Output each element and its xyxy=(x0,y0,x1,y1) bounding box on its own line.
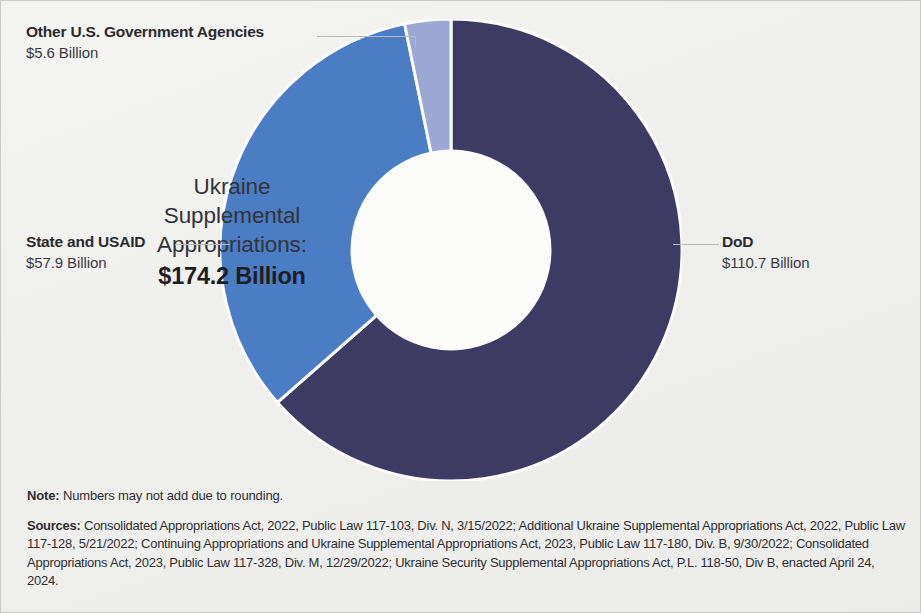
note-line: Note: Numbers may not add due to roundin… xyxy=(27,487,907,506)
donut-hole xyxy=(351,150,552,351)
callout-other-agencies: Other U.S. Government Agencies $5.6 Bill… xyxy=(26,23,264,61)
chart-figure: Ukraine Supplemental Appropriations: $17… xyxy=(0,0,921,613)
callout-state-usaid: State and USAID $57.9 Billion xyxy=(26,233,145,271)
sources-line: Sources: Consolidated Appropriations Act… xyxy=(27,517,905,591)
footnotes: Note: Numbers may not add due to roundin… xyxy=(27,487,907,591)
sources-text: Consolidated Appropriations Act, 2022, P… xyxy=(27,518,905,588)
center-total-value: $174.2 Billion xyxy=(132,261,332,291)
callout-state-value: $57.9 Billion xyxy=(26,254,145,271)
leader-line-other-horizontal xyxy=(317,36,416,37)
note-label: Note: xyxy=(27,488,59,503)
sources-label: Sources: xyxy=(27,518,81,533)
note-text: Numbers may not add due to rounding. xyxy=(59,488,283,503)
callout-state-name: State and USAID xyxy=(26,233,145,251)
leader-line-state-horizontal xyxy=(175,244,230,245)
callout-dod: DoD $110.7 Billion xyxy=(722,233,810,271)
center-line-3: Appropriations: xyxy=(132,230,332,259)
callout-other-name: Other U.S. Government Agencies xyxy=(26,23,264,41)
leader-line-dod-horizontal xyxy=(673,244,719,245)
callout-other-value: $5.6 Billion xyxy=(26,44,264,61)
center-line-1: Ukraine xyxy=(132,173,332,202)
callout-dod-name: DoD xyxy=(722,233,810,251)
center-line-2: Supplemental xyxy=(132,202,332,231)
leader-line-other-vertical xyxy=(415,36,416,47)
callout-dod-value: $110.7 Billion xyxy=(722,254,810,271)
